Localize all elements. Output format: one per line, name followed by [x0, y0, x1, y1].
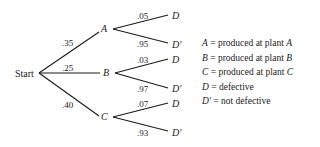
prob-start-a: .35 — [62, 38, 73, 48]
legend-symbol: C — [202, 67, 208, 77]
legend-symbol: A — [202, 38, 208, 48]
legend-eq: = — [210, 53, 215, 63]
legend-row-b: B = produced at plant B — [202, 51, 293, 66]
legend-eq: = — [211, 67, 216, 77]
legend-eq: = — [211, 82, 216, 92]
legend-row-dprime: D′ = not defective — [202, 94, 293, 109]
legend-row-a: A = produced at plant A — [202, 36, 293, 51]
legend-suffix: B — [286, 53, 292, 63]
legend-eq: = — [213, 96, 218, 106]
legend-eq: = — [210, 38, 215, 48]
legend-text: defective — [219, 82, 254, 92]
legend-suffix: A — [286, 38, 292, 48]
leaf-c-dprime: D′ — [172, 128, 181, 138]
prob-c-dprime: .93 — [137, 128, 148, 138]
prob-a-d: .05 — [137, 11, 148, 21]
prob-c-d: .07 — [137, 99, 148, 109]
leaf-a-dprime: D′ — [172, 40, 181, 50]
leaf-b-d: D — [172, 55, 179, 65]
prob-a-dprime: .95 — [137, 39, 148, 49]
prob-b-d: .03 — [137, 55, 148, 65]
node-start: Start — [15, 69, 34, 79]
legend-symbol: B — [202, 53, 208, 63]
prob-start-b: .25 — [62, 63, 73, 73]
legend-text: produced at plant — [218, 53, 286, 63]
legend-row-c: C = produced at plant C — [202, 65, 293, 80]
legend-symbol: D′ — [202, 96, 211, 106]
prob-b-dprime: .97 — [137, 84, 148, 94]
legend-text: produced at plant — [218, 38, 286, 48]
legend-row-d: D = defective — [202, 80, 293, 95]
node-c: C — [101, 112, 108, 122]
legend: A = produced at plant A B = produced at … — [202, 36, 293, 109]
legend-text: not defective — [221, 96, 270, 106]
node-b: B — [103, 68, 109, 78]
prob-start-c: .40 — [62, 100, 73, 110]
legend-symbol: D — [202, 82, 209, 92]
legend-suffix: C — [287, 67, 293, 77]
leaf-b-dprime: D′ — [172, 84, 181, 94]
legend-text: produced at plant — [218, 67, 286, 77]
node-a: A — [101, 24, 107, 34]
leaf-a-d: D — [172, 11, 179, 21]
leaf-c-d: D — [172, 99, 179, 109]
